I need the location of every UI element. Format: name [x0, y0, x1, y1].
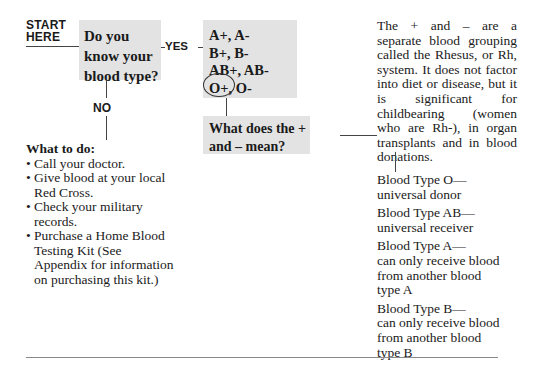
- blood-type-b: B+, B-: [209, 45, 297, 63]
- no-connector-bottom: [106, 116, 107, 140]
- start-connector: [26, 46, 79, 47]
- question-know-blood-type-box: Do you know your blood type?: [79, 20, 161, 80]
- circle-annotation-o-positive: [203, 73, 235, 97]
- start-label-line2: HERE: [26, 31, 66, 43]
- question-plus-minus: What does the + and – mean?: [209, 121, 306, 154]
- note-type-o: Blood Type O—universal donor: [377, 173, 527, 202]
- what-to-do-list: Call your doctor. Give blood at your loc…: [26, 157, 176, 288]
- what-to-do-item: Give blood at your local Red Cross.: [26, 171, 176, 200]
- question-plus-minus-box: What does the + and – mean?: [203, 116, 310, 154]
- note-title: Blood Type O—: [377, 172, 467, 187]
- no-connector-top: [106, 80, 107, 98]
- note-desc: can only receive blood from another bloo…: [377, 315, 500, 359]
- note-desc: can only receive blood from another bloo…: [377, 253, 500, 297]
- types-to-question2-connector: [226, 98, 227, 116]
- question-know-blood-type: Do you know your blood type?: [84, 28, 159, 84]
- yes-label: YES: [165, 40, 188, 52]
- note-type-b: Blood Type B—can only receive blood from…: [377, 302, 502, 360]
- note-title: Blood Type A—: [377, 238, 466, 253]
- what-to-do-item: Purchase a Home Blood Testing Kit (See A…: [26, 229, 176, 287]
- note-title: Blood Type B—: [377, 301, 466, 316]
- blood-type-notes: Blood Type O—universal donor Blood Type …: [377, 173, 527, 364]
- what-to-do-item: Call your doctor.: [26, 157, 176, 172]
- note-desc: universal donor: [377, 187, 461, 202]
- bottom-divider: [26, 357, 498, 358]
- explanation-to-types-connector: [395, 152, 396, 172]
- no-label: NO: [93, 101, 111, 115]
- what-to-do-item: Check your military records.: [26, 200, 176, 229]
- note-title: Blood Type AB—: [377, 205, 475, 220]
- note-desc: universal receiver: [377, 220, 473, 235]
- note-type-a: Blood Type A—can only receive blood from…: [377, 239, 502, 297]
- what-to-do-section: What to do: Call your doctor. Give blood…: [26, 142, 176, 287]
- what-to-do-heading: What to do:: [26, 142, 176, 157]
- question2-to-explanation-connector: [340, 135, 377, 136]
- blood-type-a: A+, A-: [209, 27, 297, 45]
- rh-explanation-text: The + and – are a separate blood groupin…: [377, 19, 517, 165]
- note-type-ab: Blood Type AB—universal receiver: [377, 206, 527, 235]
- start-here-label: START HERE: [26, 19, 66, 43]
